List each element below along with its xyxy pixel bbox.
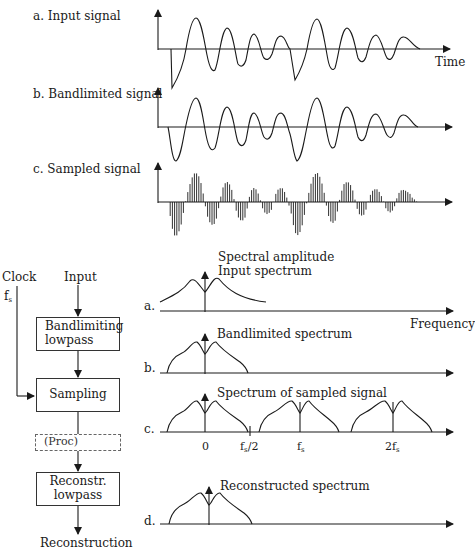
block-line2: lowpass: [45, 334, 119, 348]
bandlimiting-lowpass-block: Bandlimiting lowpass: [36, 317, 120, 351]
sampled-signal-plot: [158, 163, 452, 235]
input-signal-label: a. Input signal: [33, 10, 121, 22]
reconstruction-lowpass-block: Reconstr. lowpass: [36, 472, 120, 506]
spectrum-b-letter: b.: [144, 362, 156, 374]
bandlimited-signal-plot: [158, 88, 452, 161]
spectral-amplitude-label: Spectral amplitude: [218, 251, 334, 263]
clock-frequency-label: fs: [4, 290, 12, 304]
input-signal-plot: [158, 10, 450, 88]
frequency-axis-label: Frequency: [410, 318, 475, 330]
input-spectrum-plot: [160, 272, 453, 312]
block-line2: lowpass: [54, 489, 103, 503]
time-axis-label: Time: [435, 56, 465, 68]
proc-block: (Proc): [35, 434, 121, 451]
spectrum-a-letter: a.: [144, 300, 155, 312]
sampled-spectrum-label: Spectrum of sampled signal: [217, 387, 387, 399]
sampling-block: Sampling: [36, 378, 120, 412]
block-line1: Reconstr.: [49, 475, 106, 489]
spectrum-c-letter: c.: [144, 423, 155, 435]
reconstructed-spectrum-label: Reconstructed spectrum: [220, 480, 370, 492]
block-line1: Bandlimiting: [45, 320, 119, 334]
clock-label: Clock: [2, 271, 36, 283]
bandlimited-signal-label: b. Bandlimited signal: [33, 88, 162, 100]
tick-2fs: 2fs: [385, 441, 400, 454]
input-spectrum-label: Input spectrum: [218, 265, 312, 277]
block-line1: (Proc): [44, 436, 120, 449]
tick-fs: fs: [297, 441, 305, 454]
input-label: Input: [64, 271, 97, 283]
tick-half-fs: fs/2: [240, 441, 258, 454]
sampled-signal-label: c. Sampled signal: [33, 163, 141, 175]
bandlimited-spectrum-label: Bandlimited spectrum: [217, 328, 352, 340]
block-line1: Sampling: [49, 388, 107, 402]
sampled-spectrum-plot: [160, 394, 453, 436]
tick-zero: 0: [202, 441, 209, 452]
spectrum-d-letter: d.: [144, 515, 156, 527]
reconstruction-output-label: Reconstruction: [40, 537, 133, 549]
